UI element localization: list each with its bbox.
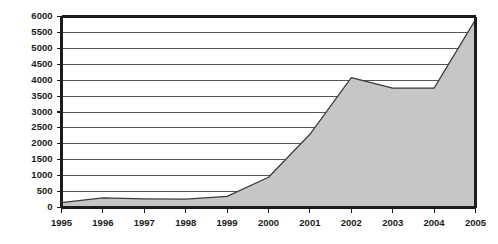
x-axis-ticks-group: 1995199619971998199920002001200220032004…: [51, 208, 487, 228]
x-tick-label: 1997: [134, 217, 155, 228]
y-tick-label: 3500: [31, 90, 52, 101]
y-tick-label: 2000: [31, 137, 52, 148]
x-tick-label: 2001: [299, 217, 321, 228]
y-tick-label: 6000: [31, 10, 52, 21]
x-tick-label: 1998: [175, 217, 196, 228]
x-tick-label: 1995: [51, 217, 73, 228]
x-tick-label: 1999: [217, 217, 238, 228]
y-tick-label: 0: [47, 201, 52, 212]
area-fill-path: [62, 20, 476, 208]
x-tick-label: 2002: [341, 217, 362, 228]
y-tick-label: 4500: [31, 58, 52, 69]
y-tick-label: 1000: [31, 169, 52, 180]
y-tick-label: 1500: [31, 153, 52, 164]
y-tick-label: 3000: [31, 106, 52, 117]
chart-canvas: 0500100015002000250030003500400045005000…: [0, 0, 498, 244]
y-tick-label: 4000: [31, 74, 52, 85]
x-tick-label: 1996: [92, 217, 113, 228]
y-tick-label: 5500: [31, 26, 52, 37]
x-tick-label: 2004: [424, 217, 446, 228]
y-tick-label: 2500: [31, 121, 52, 132]
area-chart-figure: 0500100015002000250030003500400045005000…: [0, 0, 498, 244]
x-tick-label: 2005: [465, 217, 487, 228]
data-area-group: [62, 20, 476, 208]
x-tick-label: 2000: [258, 217, 279, 228]
x-tick-label: 2003: [382, 217, 403, 228]
y-tick-label: 500: [37, 185, 53, 196]
y-axis-ticks-group: 0500100015002000250030003500400045005000…: [31, 10, 61, 212]
y-tick-label: 5000: [31, 42, 52, 53]
